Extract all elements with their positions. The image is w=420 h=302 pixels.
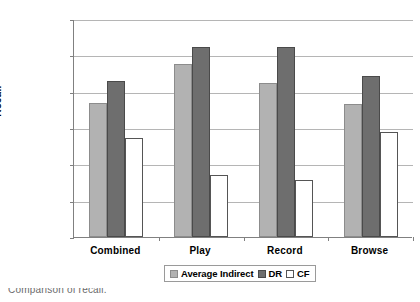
caption-strip: Comparison of recall. <box>0 288 420 302</box>
x-axis-category-label-combined: Combined <box>73 245 158 256</box>
y-tick-mark <box>70 202 74 203</box>
legend-swatch-icon <box>170 270 178 278</box>
bar-record-cf <box>295 180 313 237</box>
bar-browse-cf <box>380 132 398 237</box>
bar-play-cf <box>210 175 228 237</box>
gridline <box>74 20 413 21</box>
x-axis-category-label-browse: Browse <box>327 245 412 256</box>
legend-entry-average-indirect[interactable]: Average Indirect <box>170 269 254 279</box>
x-axis-category-label-record: Record <box>243 245 328 256</box>
bar-play-dr <box>192 47 210 237</box>
category-separator <box>413 237 414 241</box>
y-tick-mark <box>70 93 74 94</box>
bar-play-average-indirect <box>174 64 192 237</box>
y-tick-mark <box>70 165 74 166</box>
legend-label: Average Indirect <box>181 269 254 279</box>
legend-entry-cf[interactable]: CF <box>286 269 309 279</box>
gridline <box>74 56 413 57</box>
category-separator <box>328 237 329 241</box>
bar-browse-average-indirect <box>344 104 362 237</box>
category-separator <box>159 237 160 241</box>
caption-text: Comparison of recall. <box>8 288 107 295</box>
x-axis-category-label-play: Play <box>158 245 243 256</box>
legend-swatch-icon <box>258 270 266 278</box>
bar-record-average-indirect <box>259 83 277 237</box>
legend-label: CF <box>297 269 309 279</box>
legend-entry-dr[interactable]: DR <box>258 269 283 279</box>
bar-browse-dr <box>362 76 380 237</box>
bar-combined-cf <box>125 138 143 237</box>
legend-swatch-icon <box>286 270 294 278</box>
y-axis-title: Recall <box>0 85 3 116</box>
legend-label: DR <box>269 269 283 279</box>
y-tick-mark <box>70 20 74 21</box>
y-tick-mark <box>70 56 74 57</box>
category-separator <box>244 237 245 241</box>
y-tick-mark <box>70 238 74 239</box>
chart-legend: Average IndirectDRCF <box>164 265 316 282</box>
bar-combined-average-indirect <box>89 103 107 237</box>
bar-record-dr <box>277 47 295 237</box>
y-tick-mark <box>70 129 74 130</box>
bar-chart-figure: Recall 0.00%5.00%10.00%15.00%20.00%25.00… <box>0 0 420 302</box>
bar-combined-dr <box>107 81 125 237</box>
plot-area: 0.00%5.00%10.00%15.00%20.00%25.00%30.00% <box>73 20 412 238</box>
